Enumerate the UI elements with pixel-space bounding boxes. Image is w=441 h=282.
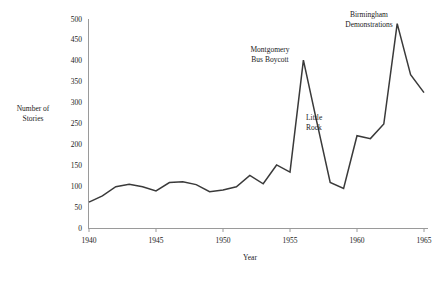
x-tick-label-1955: 1955 [275, 236, 305, 245]
y-tick-label-350: 350 [58, 77, 82, 86]
annotation-birmingham-demonstrations: Birmingham Demonstrations [330, 10, 408, 29]
y-tick-label-200: 200 [58, 140, 82, 149]
x-axis-title: Year [210, 253, 290, 263]
x-tick-label-1950: 1950 [208, 236, 238, 245]
y-tick-label-400: 400 [58, 56, 82, 65]
annotation-montgomery-bus-boycott: Montgomery Bus Boycott [234, 45, 306, 64]
tick-marks-group [89, 229, 424, 233]
y-tick-label-450: 450 [58, 35, 82, 44]
y-axis-title: Number of Stories [2, 104, 64, 123]
x-tick-label-1960: 1960 [342, 236, 372, 245]
x-tick-label-1965: 1965 [409, 236, 439, 245]
y-tick-label-500: 500 [58, 15, 82, 24]
y-tick-label-300: 300 [58, 98, 82, 107]
line-chart: Number of Stories Year 05010015020025030… [0, 0, 441, 282]
y-tick-label-0: 0 [58, 224, 82, 233]
y-tick-label-250: 250 [58, 119, 82, 128]
x-tick-label-1940: 1940 [74, 236, 104, 245]
y-tick-label-150: 150 [58, 161, 82, 170]
y-tick-label-100: 100 [58, 182, 82, 191]
y-tick-label-50: 50 [58, 203, 82, 212]
x-tick-label-1945: 1945 [141, 236, 171, 245]
annotation-little-rock: Little Rock [306, 113, 340, 132]
